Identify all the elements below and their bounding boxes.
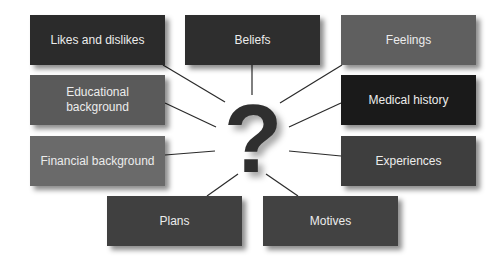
box-feelings: Feelings — [341, 15, 476, 65]
box-label: Financial background — [40, 154, 154, 169]
box-label: Educational background — [34, 85, 161, 115]
connector-likes — [163, 65, 225, 102]
box-motives: Motives — [263, 196, 398, 246]
connector-feelings — [280, 65, 342, 103]
box-label: Plans — [159, 214, 189, 229]
box-beliefs: Beliefs — [185, 15, 320, 65]
box-plans: Plans — [107, 196, 242, 246]
box-label: Motives — [310, 214, 351, 229]
box-financial-background: Financial background — [30, 136, 165, 186]
box-label: Beliefs — [234, 33, 270, 48]
box-label: Medical history — [368, 93, 448, 108]
box-medical-history: Medical history — [341, 75, 476, 125]
connector-experiences — [289, 151, 341, 156]
diagram-canvas: ? Likes and dislikes Beliefs Feelings Ed… — [0, 0, 503, 264]
box-likes-and-dislikes: Likes and dislikes — [30, 15, 165, 65]
connector-financial — [165, 151, 215, 155]
box-educational-background: Educational background — [30, 75, 165, 125]
connector-medical — [289, 103, 341, 127]
connector-education — [165, 103, 216, 127]
box-label: Experiences — [375, 154, 441, 169]
box-experiences: Experiences — [341, 136, 476, 186]
question-mark-icon: ? — [228, 94, 278, 184]
box-label: Feelings — [386, 33, 431, 48]
box-label: Likes and dislikes — [50, 33, 144, 48]
